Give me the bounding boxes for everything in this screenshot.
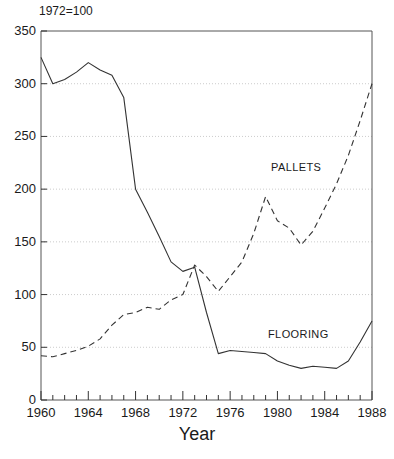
data-series-group (41, 57, 372, 368)
x-tick-label: 1988 (349, 405, 394, 420)
x-tick-label: 1964 (65, 405, 111, 420)
series-label-flooring: FLOORING (268, 328, 329, 340)
y-tick-label: 200 (2, 181, 36, 196)
y-tick-label: 300 (2, 76, 36, 91)
x-tick-label: 1984 (302, 405, 348, 420)
x-tick-label: 1968 (113, 405, 159, 420)
x-tick-label: 1960 (18, 405, 64, 420)
series-label-pallets: PALLETS (271, 161, 321, 173)
series-line-flooring (41, 57, 372, 368)
x-axis-title: Year (0, 424, 394, 445)
x-tick-label: 1976 (207, 405, 253, 420)
y-tick-label: 350 (2, 23, 36, 38)
y-tick-label: 150 (2, 234, 36, 249)
x-tick-label: 1972 (160, 405, 206, 420)
line-chart-plot (0, 0, 394, 459)
y-tick-label: 100 (2, 287, 36, 302)
chart-figure: 1972=100 050100150200250300350 196019641… (0, 0, 394, 459)
gridlines-group (41, 84, 372, 348)
x-tick-label: 1980 (254, 405, 300, 420)
y-tick-label: 50 (2, 339, 36, 354)
series-line-pallets (41, 84, 372, 357)
y-tick-label: 250 (2, 128, 36, 143)
index-base-note: 1972=100 (39, 4, 93, 18)
